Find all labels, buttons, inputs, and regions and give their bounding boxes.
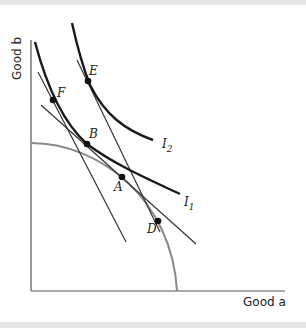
label-A: A xyxy=(113,180,123,194)
indifference-diagram: E F B A D I2 I1 Good a Good b xyxy=(0,0,306,328)
price-line-A xyxy=(41,105,196,244)
label-E: E xyxy=(88,64,98,78)
indifference-curve-I2 xyxy=(72,23,153,140)
production-possibility-curve xyxy=(31,143,177,291)
x-axis-label: Good a xyxy=(243,295,286,309)
label-I1: I1 xyxy=(183,195,194,212)
point-F xyxy=(50,97,57,104)
indifference-curve-I1 xyxy=(35,42,180,194)
point-E xyxy=(85,78,92,85)
label-I2: I2 xyxy=(161,137,173,154)
bottom-border xyxy=(0,322,306,328)
label-D: D xyxy=(146,222,157,236)
label-B: B xyxy=(88,127,98,141)
point-B xyxy=(84,141,91,148)
label-F: F xyxy=(56,86,66,100)
y-axis-label: Good b xyxy=(10,37,24,80)
